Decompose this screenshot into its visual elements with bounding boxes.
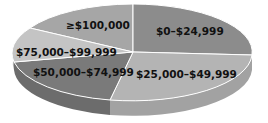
label-25000-49999: $25,000–$49,999 bbox=[136, 68, 237, 80]
label-0-24999: $0–$24,999 bbox=[156, 25, 224, 37]
label-75000-99999: $75,000–$99,999 bbox=[16, 46, 117, 58]
label-50000-74999: $50,000–$74,999 bbox=[33, 66, 134, 78]
label-100000-plus: ≥$100,000 bbox=[66, 19, 130, 31]
income-pie-chart: ≥$100,000 $0–$24,999 $75,000–$99,999 $50… bbox=[0, 0, 268, 123]
